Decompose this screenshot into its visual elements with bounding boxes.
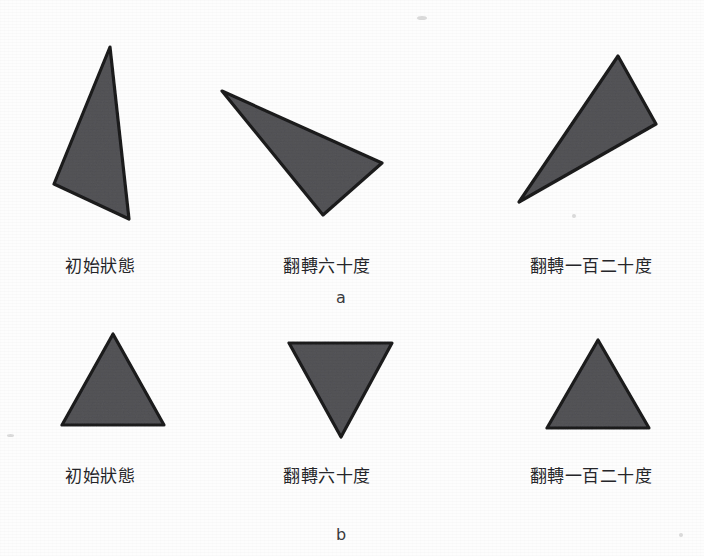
scan-speck [7,434,14,437]
scalene-triangle-initial [54,47,129,219]
scalene-triangle-rotated-120 [519,56,656,202]
caption-row-a-panel-3: 翻轉一百二十度 [530,252,653,277]
scan-speck [679,533,683,537]
row-label-b: b [336,525,346,544]
caption-row-b-panel-1: 初始狀態 [65,462,135,487]
caption-row-b-panel-3: 翻轉一百二十度 [530,462,653,487]
caption-row-a-panel-2: 翻轉六十度 [283,252,371,277]
equilateral-triangle-rotated-60 [289,343,392,437]
row-label-a: a [336,288,346,307]
figure-root: 初始狀態 翻轉六十度 翻轉一百二十度 a 初始狀態 翻轉六十度 翻轉一百二十度 … [0,0,704,556]
caption-row-b-panel-2: 翻轉六十度 [283,462,371,487]
scan-speck [572,214,576,218]
equilateral-triangle-initial [62,334,164,425]
scan-speck [417,16,427,20]
caption-row-a-panel-1: 初始狀態 [65,252,135,277]
scalene-triangle-rotated-60 [222,91,382,215]
equilateral-triangle-rotated-120 [547,340,649,428]
